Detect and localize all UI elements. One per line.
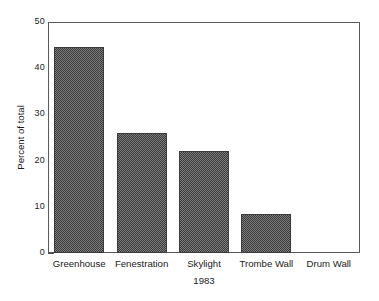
- bar-fenestration: [117, 133, 167, 253]
- bars-layer: [48, 22, 360, 253]
- y-tick-label: 40: [35, 63, 45, 72]
- y-tick-label: 0: [40, 248, 45, 257]
- x-axis-title: 1983: [48, 275, 360, 287]
- bar-trombe-wall: [241, 214, 291, 253]
- y-tick-label: 30: [35, 109, 45, 118]
- y-tick-label: 10: [35, 202, 45, 211]
- y-tick-major: [48, 253, 54, 254]
- y-tick-label: 50: [35, 17, 45, 26]
- bar-chart-figure: Percent of total 01020304050 GreenhouseF…: [0, 0, 379, 301]
- y-axis-title: Percent of total: [14, 22, 28, 253]
- y-tick-label: 20: [35, 156, 45, 165]
- x-tick-label-drum-wall: Drum Wall: [279, 258, 379, 270]
- bar-greenhouse: [54, 47, 104, 253]
- bar-skylight: [179, 151, 229, 253]
